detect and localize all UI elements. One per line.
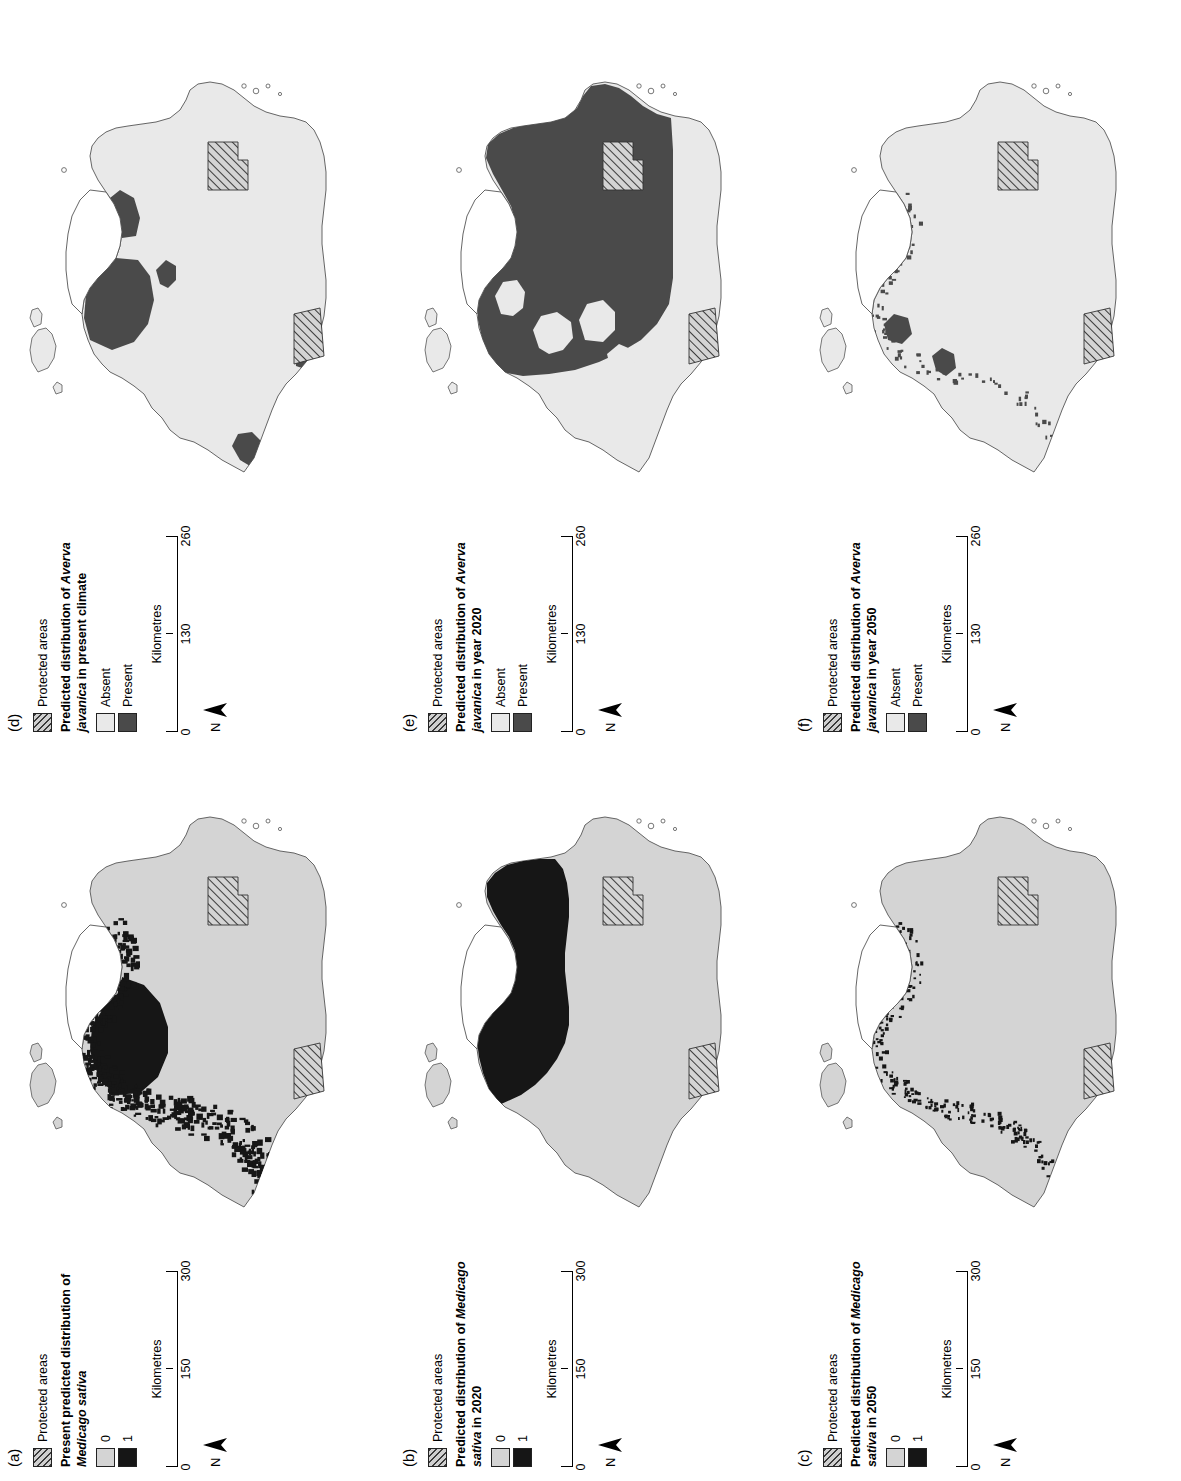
protected-area <box>689 1043 719 1099</box>
class-present-label: Present <box>120 664 136 707</box>
panel-f: (f)Protected areasPredicted distribution… <box>780 5 1175 740</box>
offshore-island <box>843 1117 852 1129</box>
scale-tick-1: 130 <box>968 624 984 645</box>
scale-tick-1: 150 <box>178 1359 194 1380</box>
legend-e: (e)Protected areasPredicted distribution… <box>399 536 628 732</box>
scale-bar-c: Kilometres0150300 <box>939 1271 983 1467</box>
legend-title-c: Predicted distribution of Medicagosativa… <box>848 1261 880 1467</box>
scale-bar-b: Kilometres0150300 <box>544 1271 588 1467</box>
class-present-swatch <box>908 713 927 732</box>
figure-root: (a)Protected areasPresent predicted dist… <box>0 0 1181 1481</box>
legend-row-class-0: Absent <box>96 536 115 732</box>
north-arrow-f: N <box>993 536 1019 732</box>
islet <box>457 903 462 908</box>
legend-title-e: Predicted distribution of Avervajavanica… <box>453 536 485 732</box>
class-present-swatch <box>118 1448 137 1467</box>
legend-a: (a)Protected areasPresent predicted dist… <box>4 1271 233 1467</box>
scale-tick-0: 0 <box>178 729 194 736</box>
map-holder-f <box>784 70 1164 490</box>
islet <box>266 84 270 88</box>
offshore-island <box>820 308 832 327</box>
class-absent-label: 0 <box>493 1435 509 1442</box>
north-arrow-icon <box>993 1437 1019 1453</box>
islet <box>637 84 641 88</box>
legend-f: (f)Protected areasPredicted distribution… <box>794 536 1023 732</box>
scale-bar-line <box>166 1271 178 1467</box>
map-holder-d <box>0 70 374 490</box>
legend-row-class-0: Absent <box>886 536 905 732</box>
scale-bar-line <box>956 1271 968 1467</box>
scale-tick-1: 130 <box>573 624 589 645</box>
class-absent-label: 0 <box>888 1435 904 1442</box>
north-arrow-d: N <box>203 536 229 732</box>
scale-tick-1: 130 <box>178 624 194 645</box>
scale-tick-labels: 0130260 <box>968 536 983 732</box>
legend-row-protected: Protected areas <box>33 536 52 732</box>
islet <box>637 819 641 823</box>
scale-tick-2: 260 <box>573 526 589 547</box>
map-c <box>784 805 1164 1225</box>
class-absent-label: 0 <box>98 1435 114 1442</box>
legend-row-class-1: 1 <box>513 1261 532 1467</box>
north-arrow-icon <box>203 1437 229 1453</box>
panel-c: (c)Protected areasPredicted distribution… <box>780 740 1175 1475</box>
north-arrow-a: N <box>203 1271 229 1467</box>
islet <box>1032 84 1036 88</box>
panel-e: (e)Protected areasPredicted distribution… <box>385 5 780 740</box>
class-present-swatch <box>908 1448 927 1467</box>
offshore-island <box>820 328 846 372</box>
legend-row-class-1: Present <box>908 536 927 732</box>
class-present-swatch <box>118 713 137 732</box>
islet <box>661 819 665 823</box>
scale-tick-0: 0 <box>178 1464 194 1471</box>
map-holder-b <box>389 805 769 1225</box>
class-absent-swatch <box>491 713 510 732</box>
offshore-island <box>30 1043 42 1062</box>
legend-row-class-0: Absent <box>491 536 510 732</box>
panel-a: (a)Protected areasPresent predicted dist… <box>0 740 385 1475</box>
north-label: N <box>208 723 225 732</box>
protected-areas-swatch <box>33 713 52 732</box>
legend-row-protected: Protected areas <box>33 1271 52 1467</box>
islet <box>253 88 259 94</box>
class-absent-swatch <box>491 1448 510 1467</box>
map-holder-a <box>0 805 374 1225</box>
protected-area <box>1084 1043 1114 1099</box>
legend-title-b: Predicted distribution of Medicagosativa… <box>453 1261 485 1467</box>
islet <box>62 168 67 173</box>
class-absent-label: Absent <box>888 668 904 707</box>
offshore-island <box>843 382 852 394</box>
class-absent-swatch <box>96 1448 115 1467</box>
islet <box>1056 819 1060 823</box>
class-absent-swatch <box>96 713 115 732</box>
legend-d: (d)Protected areasPredicted distribution… <box>4 536 233 732</box>
legend-row-class-1: Present <box>118 536 137 732</box>
offshore-island <box>448 382 457 394</box>
north-arrow-icon <box>203 702 229 718</box>
protected-areas-swatch <box>823 713 842 732</box>
protected-areas-label: Protected areas <box>825 619 841 707</box>
legend-b: (b)Protected areasPredicted distribution… <box>399 1261 628 1467</box>
panel-body-a: (a)Protected areasPresent predicted dist… <box>0 740 385 1475</box>
scale-tick-labels: 0150300 <box>178 1271 193 1467</box>
scale-tick-0: 0 <box>968 729 984 736</box>
class-present-swatch <box>513 1448 532 1467</box>
class-present-label: Present <box>515 664 531 707</box>
islet <box>278 92 281 95</box>
islet <box>62 903 67 908</box>
map-a <box>0 805 374 1225</box>
islet <box>661 84 665 88</box>
panel-body-d: (d)Protected areasPredicted distribution… <box>0 5 385 740</box>
north-label: N <box>603 723 620 732</box>
islet <box>673 827 676 830</box>
islet <box>852 903 857 908</box>
offshore-island <box>30 328 56 372</box>
legend-row-protected: Protected areas <box>428 536 447 732</box>
scale-tick-2: 260 <box>968 526 984 547</box>
islet <box>648 823 654 829</box>
map-d <box>0 70 374 490</box>
islet <box>1056 84 1060 88</box>
islet <box>1043 823 1049 829</box>
scale-bar-e: Kilometres0130260 <box>544 536 588 732</box>
north-label: N <box>208 1458 225 1467</box>
